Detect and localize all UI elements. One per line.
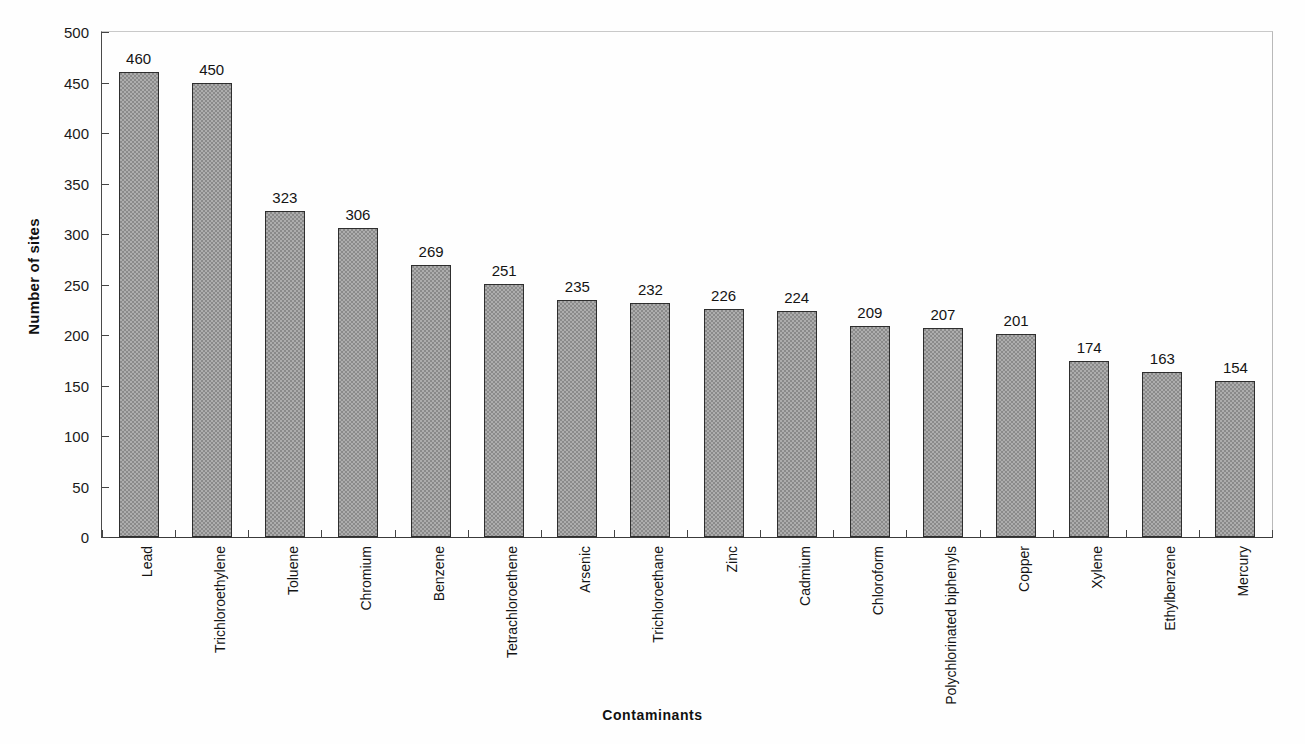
bar-value-label: 235 <box>565 278 590 295</box>
x-axis-tick <box>614 530 615 538</box>
x-axis-tick <box>1199 530 1200 538</box>
bar: 174 <box>1069 361 1109 537</box>
bar: 154 <box>1215 381 1255 537</box>
y-axis-tick <box>102 386 109 387</box>
y-axis-tick <box>102 335 109 336</box>
x-axis-category-label: Mercury <box>1235 546 1251 597</box>
bar-value-label: 201 <box>1004 312 1029 329</box>
x-axis-tick <box>541 530 542 538</box>
bar-value-label: 323 <box>272 189 297 206</box>
bar: 207 <box>923 328 963 537</box>
y-axis-tick <box>102 537 109 538</box>
bar-value-label: 251 <box>492 262 517 279</box>
y-axis-tick-label: 400 <box>64 125 89 142</box>
x-axis-category-label: Toluene <box>285 546 301 595</box>
y-axis-tick-label: 100 <box>64 428 89 445</box>
x-axis-tick <box>321 530 322 538</box>
x-axis-category-label: Tetrachloroethene <box>504 546 520 658</box>
bar-value-label: 232 <box>638 281 663 298</box>
bar: 306 <box>338 228 378 537</box>
y-axis-tick <box>102 285 109 286</box>
bar-value-label: 450 <box>199 61 224 78</box>
x-axis-tick <box>760 530 761 538</box>
x-axis-tick <box>395 530 396 538</box>
y-axis-tick <box>102 487 109 488</box>
y-axis-tick-label: 300 <box>64 226 89 243</box>
x-axis-category-label: Ethylbenzene <box>1162 546 1178 631</box>
bar: 235 <box>557 300 597 537</box>
y-axis-tick-label: 450 <box>64 74 89 91</box>
x-axis-category-label: Lead <box>139 546 155 577</box>
bar: 201 <box>996 334 1036 537</box>
x-axis-category-label: Chloroform <box>870 546 886 615</box>
chart-screen: Number of sites 050100150200250300350400… <box>0 0 1305 744</box>
y-axis-tick <box>102 32 109 33</box>
x-axis-tick <box>1272 530 1273 538</box>
x-axis-category-label: Benzene <box>431 546 447 601</box>
bar-value-label: 269 <box>419 243 444 260</box>
x-axis-category-label: Polychlorinated biphenyls <box>943 546 959 705</box>
y-axis-tick-label: 0 <box>81 529 89 546</box>
x-axis-category-label: Arsenic <box>577 546 593 593</box>
x-axis-tick <box>906 530 907 538</box>
y-axis-tick <box>102 83 109 84</box>
bar: 232 <box>630 303 670 537</box>
bar-value-label: 207 <box>930 306 955 323</box>
bar: 224 <box>777 311 817 537</box>
x-axis-tick <box>175 530 176 538</box>
x-axis-tick <box>1053 530 1054 538</box>
bar: 209 <box>850 326 890 537</box>
y-axis-tick-label: 350 <box>64 175 89 192</box>
bar-value-label: 460 <box>126 50 151 67</box>
y-axis-tick-label: 50 <box>72 478 89 495</box>
bar-value-label: 163 <box>1150 350 1175 367</box>
x-axis-tick <box>248 530 249 538</box>
x-axis-tick <box>102 530 103 538</box>
x-axis-tick <box>687 530 688 538</box>
bar-value-label: 226 <box>711 287 736 304</box>
plot-area: 050100150200250300350400450500 LeadTrich… <box>101 31 1273 538</box>
x-axis-tick <box>468 530 469 538</box>
y-axis-tick-label: 250 <box>64 276 89 293</box>
y-axis-tick <box>102 234 109 235</box>
bar: 251 <box>484 284 524 538</box>
bar: 450 <box>192 83 232 538</box>
x-axis-category-label: Chromium <box>358 546 374 611</box>
x-axis-category-label: Copper <box>1016 546 1032 592</box>
y-axis-tick-label: 200 <box>64 327 89 344</box>
bar-value-label: 209 <box>857 304 882 321</box>
x-axis-tick <box>1126 530 1127 538</box>
bar: 163 <box>1142 372 1182 537</box>
bar-value-label: 154 <box>1223 359 1248 376</box>
x-axis-category-label: Xylene <box>1089 546 1105 589</box>
y-axis-tick-label: 500 <box>64 24 89 41</box>
bar-value-label: 306 <box>345 206 370 223</box>
bar: 226 <box>704 309 744 537</box>
bar: 323 <box>265 211 305 537</box>
x-axis-title: Contaminants <box>0 707 1305 723</box>
x-axis-category-label: Trichloroethylene <box>212 546 228 653</box>
y-axis-tick <box>102 184 109 185</box>
x-axis-tick <box>980 530 981 538</box>
y-axis-tick <box>102 436 109 437</box>
y-axis-tick-label: 150 <box>64 377 89 394</box>
x-axis-tick <box>833 530 834 538</box>
bar: 269 <box>411 265 451 537</box>
bar-value-label: 224 <box>784 289 809 306</box>
x-axis-category-label: Zinc <box>724 546 740 572</box>
y-axis-tick <box>102 133 109 134</box>
bar-value-label: 174 <box>1077 339 1102 356</box>
bar: 460 <box>119 72 159 537</box>
x-axis-category-label: Trichloroethane <box>650 546 666 643</box>
x-axis-category-label: Cadmium <box>797 546 813 606</box>
y-axis-title: Number of sites <box>25 197 42 357</box>
